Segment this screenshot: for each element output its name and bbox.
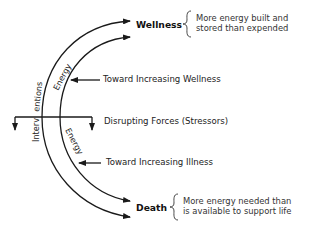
outer-arc-lower [42, 117, 130, 217]
wellness-label: Wellness [136, 19, 182, 30]
death-brace [170, 194, 178, 220]
wellness-desc-line2: stored than expended [196, 23, 288, 33]
wellness-description: More energy built and stored than expend… [196, 13, 288, 33]
death-label: Death [136, 202, 167, 213]
toward-wellness-label: Toward Increasing Wellness [103, 74, 221, 84]
interventions-label: Interv [31, 118, 41, 142]
outer-arc [42, 21, 130, 117]
wellness-desc-line1: More energy built and [196, 13, 288, 23]
death-description: More energy needed than is available to … [183, 196, 291, 216]
death-desc-line1: More energy needed than [183, 196, 291, 206]
toward-illness-label: Toward Increasing Illness [106, 157, 213, 167]
disrupting-forces-label: Disrupting Forces (Stressors) [104, 116, 228, 126]
wellness-brace [183, 11, 191, 37]
death-desc-line2: is available to support life [183, 206, 291, 216]
